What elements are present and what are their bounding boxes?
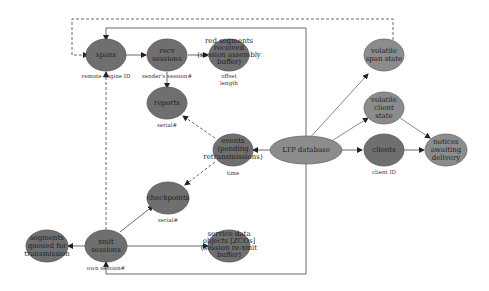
node-reports-label: reports: [154, 99, 180, 107]
node-red-segments[interactable]: red segmentsreceived(session assemblybuf…: [197, 37, 261, 87]
node-clients-label: clients: [372, 146, 396, 154]
node-red-segments-sub: offsetlength: [220, 73, 238, 87]
edge-ltp-to-xmit: [106, 158, 306, 274]
node-clients-sub: client ID: [372, 169, 397, 175]
diagram-canvas: spans remote engine ID recvsessions send…: [0, 0, 489, 291]
node-notices-label: noticesawaitingdelivery: [431, 138, 462, 162]
node-events[interactable]: events(pendingretransmissions) time: [203, 134, 263, 176]
node-clients[interactable]: clients client ID: [364, 134, 404, 175]
edge-volatile-client-to-notices: [400, 118, 430, 138]
node-ltp-database-label: LTP database: [282, 146, 330, 154]
node-reports[interactable]: reports serial#: [147, 87, 187, 128]
edge-ltp-to-volatile-client: [330, 118, 368, 142]
node-notices[interactable]: noticesawaitingdelivery: [425, 134, 467, 166]
node-xmit-sessions[interactable]: xmitsessions own session#: [85, 230, 127, 271]
edge-events-to-checkpoints: [185, 162, 215, 185]
node-recv-sessions[interactable]: recvsessions sender's session#: [142, 39, 192, 79]
node-events-label: events(pendingretransmissions): [203, 137, 263, 161]
node-service-data-label: service dataobjects [ZCOs](session re-xm…: [201, 230, 258, 259]
node-segments-queued-label: segmentsqueued fortransmission: [24, 234, 70, 258]
node-volatile-span-state[interactable]: volatilespan state: [364, 39, 404, 71]
node-spans[interactable]: spans remote engine ID: [82, 39, 131, 80]
node-checkpoints-label: checkpoints: [147, 194, 190, 202]
node-volatile-client-state[interactable]: volatileclientstate: [364, 92, 404, 124]
edge-events-to-reports: [183, 116, 215, 138]
node-events-sub: time: [227, 170, 239, 176]
node-spans-sub: remote engine ID: [82, 73, 131, 80]
node-reports-sub: serial#: [157, 122, 178, 128]
node-red-segments-label: red segmentsreceived(session assemblybuf…: [197, 37, 261, 66]
node-service-data[interactable]: service dataobjects [ZCOs](session re-xm…: [201, 230, 258, 262]
node-recv-sessions-sub: sender's session#: [142, 73, 192, 79]
node-segments-queued[interactable]: segmentsqueued fortransmission: [24, 230, 70, 262]
node-spans-label: spans: [96, 51, 117, 59]
node-volatile-span-state-label: volatilespan state: [366, 47, 403, 63]
edge-xmit-to-checkpoints: [120, 206, 153, 232]
node-checkpoints[interactable]: checkpoints serial#: [147, 182, 190, 223]
node-checkpoints-sub: serial#: [158, 217, 179, 223]
node-xmit-sessions-sub: own session#: [87, 265, 126, 271]
node-ltp-database[interactable]: LTP database: [270, 136, 342, 164]
edge-ltp-to-volatile-span: [306, 74, 368, 142]
